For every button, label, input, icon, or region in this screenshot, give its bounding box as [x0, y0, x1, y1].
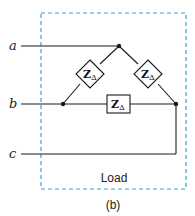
impedance-ac: Z Δ	[134, 60, 162, 88]
terminal-b-label: b	[9, 96, 17, 111]
impedance-label: Z	[141, 68, 149, 81]
node-left	[61, 102, 65, 106]
node-right	[174, 102, 178, 106]
terminal-a-label: a	[9, 38, 17, 53]
impedance-bc: Z Δ	[107, 95, 130, 113]
impedance-label: Z	[111, 98, 119, 111]
impedance-ab: Z Δ	[76, 60, 104, 88]
wire-right-lower	[158, 84, 176, 104]
figure-caption: (b)	[106, 198, 121, 212]
impedance-subscript: Δ	[91, 73, 97, 82]
wire-left-upper	[100, 46, 119, 64]
delta-load-diagram: a b c Z Δ Z Δ Z Δ Load (b)	[0, 0, 195, 216]
terminal-c-label: c	[9, 146, 17, 161]
wire-right-upper	[119, 46, 138, 64]
node-top	[117, 44, 121, 48]
impedance-subscript: Δ	[119, 103, 125, 112]
impedance-label: Z	[83, 68, 91, 81]
wire-left-lower	[63, 84, 80, 104]
impedance-subscript: Δ	[149, 73, 155, 82]
load-label: Load	[101, 171, 128, 185]
